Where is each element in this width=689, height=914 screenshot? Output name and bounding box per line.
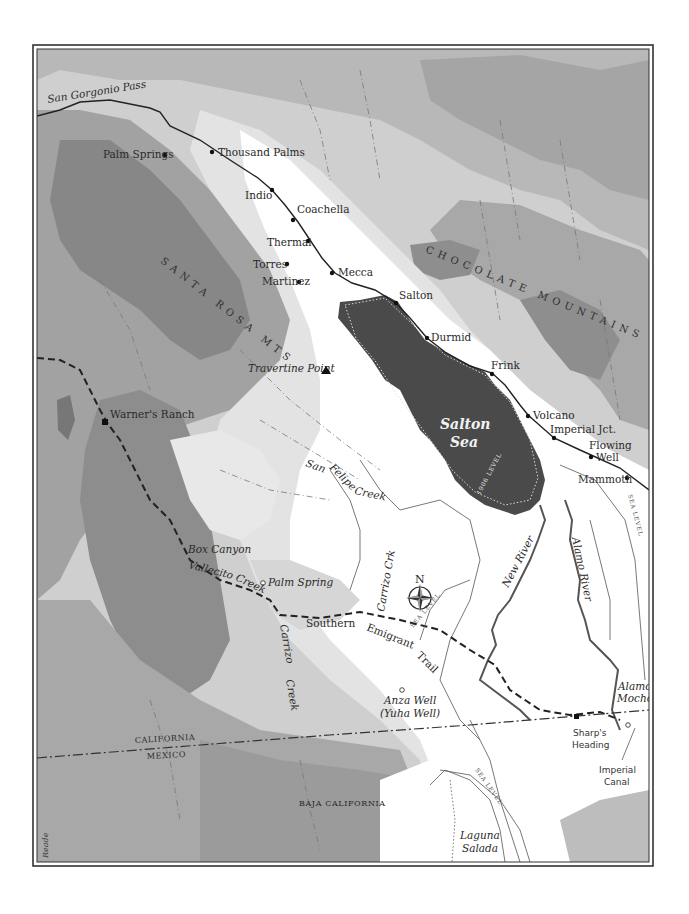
sharps-heading-marker-icon [574, 714, 579, 719]
label-frink: Frink [491, 359, 520, 371]
label-alamo: Alamo [617, 680, 651, 692]
label-durmid: Durmid [431, 331, 472, 343]
label-anza-well: Anza Well [383, 694, 436, 706]
label-thousand-palms: Thousand Palms [218, 146, 305, 158]
label-flowing: Flowing [589, 439, 632, 451]
label-baja-california: BAJA CALIFORNIA [299, 799, 386, 808]
compass-north-label: N [415, 573, 425, 586]
label-mecca: Mecca [338, 266, 373, 278]
label-coachella: Coachella [297, 203, 349, 215]
label-southern: Southern [306, 617, 355, 629]
label-indio: Indio [245, 189, 272, 201]
label-sea: Sea [450, 434, 478, 450]
label-heading: Heading [572, 740, 609, 750]
well-marker-icon [400, 688, 405, 693]
label-yuha-well: (Yuha Well) [380, 707, 440, 719]
label-salton: Salton [399, 289, 433, 301]
label-sharps: Sharp's [573, 728, 607, 738]
label-martinez: Martinez [262, 275, 311, 287]
label-volcano: Volcano [532, 409, 575, 421]
label-mocho: Mocho [616, 692, 653, 704]
label-salada: Salada [462, 842, 498, 854]
salton-sea-region-map: Palm Springs Thousand Palms Indio Coache… [0, 0, 689, 914]
alamo-mocho-marker-icon [626, 723, 631, 728]
label-palm-spring: Palm Spring [267, 576, 334, 588]
label-palm-springs: Palm Springs [103, 148, 174, 160]
label-salton: Salton [440, 416, 490, 432]
label-box-canyon: Box Canyon [187, 543, 252, 555]
label-well: Well [596, 451, 620, 463]
label-warners-ranch: Warner's Ranch [110, 408, 195, 420]
label-imperial-jct: Imperial Jct. [550, 423, 616, 435]
label-mammoth: Mammoth [578, 473, 632, 485]
label-imperial: Imperial [599, 765, 636, 775]
label-canal: Canal [604, 777, 630, 787]
label-laguna: Laguna [459, 829, 500, 841]
label-torres: Torres [253, 258, 287, 270]
map-credit: Reade [41, 832, 50, 859]
ranch-marker-icon [102, 419, 108, 425]
map-body: Palm Springs Thousand Palms Indio Coache… [37, 49, 653, 862]
label-thermal: Thermal [267, 236, 312, 248]
